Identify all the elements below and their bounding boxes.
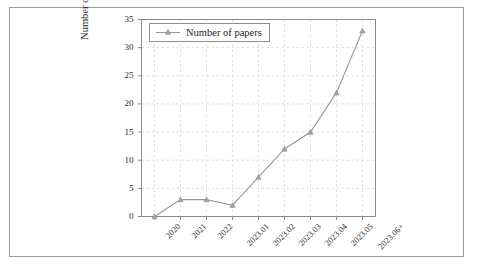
- y-axis-tick-label: 35: [110, 15, 134, 24]
- axis-ticks: [138, 20, 363, 221]
- data-point-marker: [334, 90, 339, 95]
- chart-legend[interactable]: Number of papers: [149, 23, 270, 42]
- legend-entry-label: Number of papers: [186, 27, 262, 38]
- y-axis-tick-label: 25: [110, 71, 134, 80]
- y-axis-tick-label: 5: [110, 184, 134, 193]
- triangle-marker-icon: [155, 27, 181, 38]
- y-axis-title: Number of papers: [79, 0, 91, 62]
- data-point-marker: [282, 146, 287, 151]
- gridlines: [142, 20, 376, 217]
- y-axis-tick-label: 10: [110, 156, 134, 165]
- data-point-marker: [360, 28, 365, 33]
- y-axis-tick-label: 15: [110, 128, 134, 137]
- y-axis-tick-label: 0: [110, 212, 134, 221]
- y-axis-tick-label: 30: [110, 43, 134, 52]
- y-axis-tick-label: 20: [110, 99, 134, 108]
